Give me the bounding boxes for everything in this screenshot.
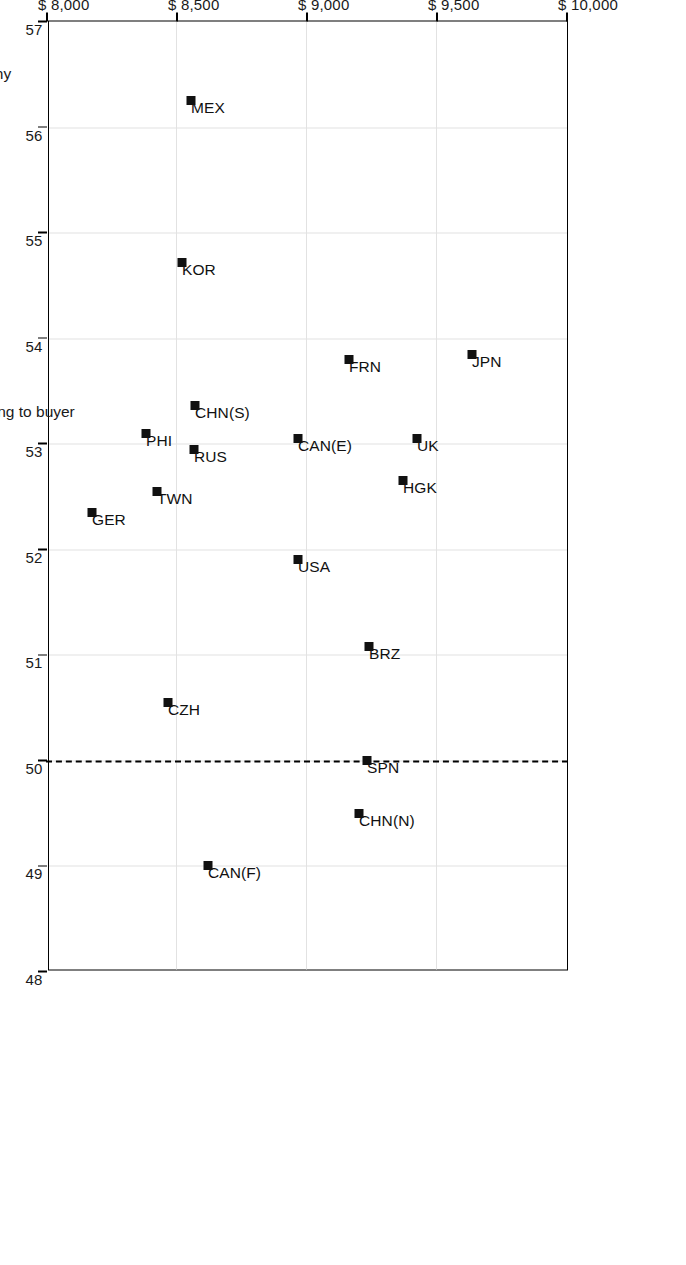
gridline-buyer [49,654,567,655]
chart-canvas: JPNFRNUKHGKCAN(E)CHN(S)RUSPHITWNGERKORME… [0,0,686,1265]
tick-label-profit: $ 9,000 [298,0,308,13]
tick-label-profit: $ 10,000 [558,0,568,13]
data-point-label: USA [298,557,330,575]
x-axis-title: Percentage of profits going to buyer [0,402,75,420]
tick-label-profit: $ 8,500 [168,0,178,13]
data-point-label: KOR [182,260,216,278]
tick-label-buyer: 52 [25,548,42,565]
data-point-label: GER [93,510,127,528]
data-point-label: CZH [168,700,200,718]
data-point-label: CAN(E) [298,436,352,454]
gridline-profit [306,21,307,969]
data-point-label: FRN [349,357,381,375]
data-point-label: SPN [367,758,399,776]
data-point-label: HGK [403,478,437,496]
tick-label-buyer: 51 [25,653,42,670]
data-point-label: RUS [194,447,227,465]
tick-label-buyer: 54 [25,337,42,354]
data-point-label: BRZ [369,644,400,662]
tick-label-profit: $ 9,500 [428,0,438,13]
tick-label-buyer: 48 [25,970,42,987]
data-point-label: MEX [191,98,225,116]
tick-label-buyer: 49 [25,864,42,881]
tick-label-profit: $ 8,000 [38,0,48,13]
data-point-label: CHN(N) [359,811,415,829]
x-axis-annotation-hierarchy: Hierarchy [0,64,11,82]
tick-profit [306,12,308,21]
tick-profit [176,12,178,21]
equity-reference-line [46,760,568,762]
data-point-label: CHN(S) [195,403,250,421]
tick-profit [46,12,48,21]
tick-label-buyer: 53 [25,442,42,459]
tick-profit [436,12,438,21]
tick-label-buyer: 57 [25,20,42,37]
gridline-buyer [49,865,567,866]
gridline-buyer [49,338,567,339]
gridline-buyer [49,127,567,128]
gridline-buyer [49,232,567,233]
data-point-label: UK [418,436,440,454]
plot-area: JPNFRNUKHGKCAN(E)CHN(S)RUSPHITWNGERKORME… [48,20,568,970]
data-point-label: TWN [158,489,194,507]
data-point-label: JPN [472,352,502,370]
tick-profit [566,12,568,21]
tick-label-buyer: 55 [25,231,42,248]
tick-label-buyer: 56 [25,126,42,143]
tick-label-buyer: 50 [25,759,42,776]
data-point-label: CAN(F) [208,863,261,881]
gridline-buyer [49,549,567,550]
data-point-label: PHI [146,431,172,449]
